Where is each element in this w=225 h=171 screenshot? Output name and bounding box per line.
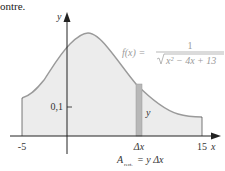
integral-diagram: 0,1 y x -5 Δx 15 y f(x) = 1 x² − 4x + 13…: [0, 0, 225, 171]
y-axis-arrow-icon: [64, 12, 71, 22]
area-formula-rhs: = y Δx: [137, 154, 164, 165]
x-right-label: 15: [197, 141, 207, 152]
x-axis-label: x: [210, 141, 216, 152]
x-left-label: -5: [18, 141, 26, 152]
delta-x-label: Δx: [133, 141, 145, 152]
y-tick-label: 0,1: [51, 101, 64, 112]
formula-lhs: f(x) =: [122, 47, 145, 59]
area-under-curve: [22, 33, 202, 136]
formula-denominator: x² − 4x + 13: [165, 55, 216, 66]
formula-numerator: 1: [188, 40, 193, 51]
area-formula-a: A: [116, 154, 124, 165]
strip-height-label: y: [145, 107, 151, 118]
y-axis-label: y: [56, 11, 62, 22]
delta-x-strip: [136, 84, 142, 136]
area-formula-subscript: rect.: [124, 162, 133, 167]
x-axis-arrow-icon: [211, 133, 221, 140]
